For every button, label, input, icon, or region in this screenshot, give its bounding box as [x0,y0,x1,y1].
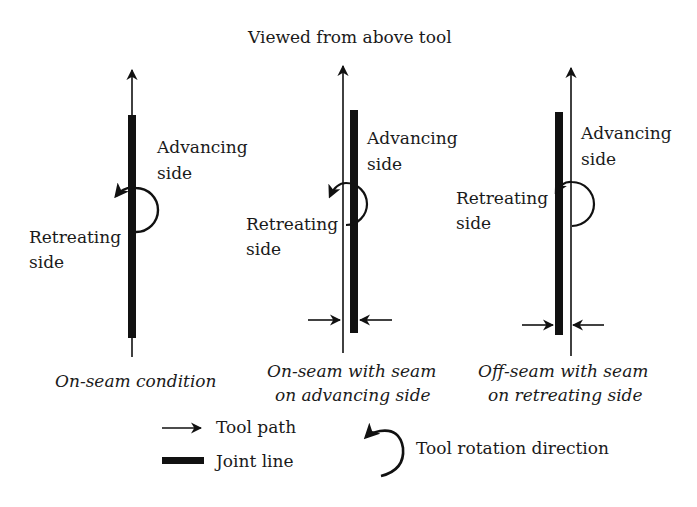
legend: Tool path Joint line Tool rotation direc… [162,417,609,476]
joint-line [128,115,136,338]
caption-on-seam-advancing: On-seam with seam on advancing side [267,361,442,405]
panel-off-seam-retreating: Advancing side Retreating side Off-seam … [456,68,677,405]
retreating-side-label: Retreating side [246,214,344,259]
rotation-direction-icon [116,188,158,232]
panel-on-seam-advancing: Advancing side Retreating side On-seam w… [246,66,463,405]
friction-stir-diagram: Viewed from above tool Advancing side Re… [0,0,697,507]
caption-on-seam: On-seam condition [55,371,217,391]
retreating-side-label: Retreating side [456,188,554,233]
legend-tool-path-label: Tool path [216,417,296,437]
retreating-side-label: Retreating side [29,227,127,272]
joint-line [555,112,563,335]
counterclockwise-arrow-icon [366,431,403,476]
thick-bar-icon [162,457,204,464]
legend-rotation-label: Tool rotation direction [416,438,609,458]
advancing-side-label: Advancing side [580,123,677,169]
panel-on-seam: Advancing side Retreating side On-seam c… [29,70,253,391]
advancing-side-label: Advancing side [156,137,253,183]
legend-joint-line-label: Joint line [214,451,294,471]
diagram-title: Viewed from above tool [247,27,452,47]
advancing-side-label: Advancing side [366,128,463,174]
caption-off-seam-retreating: Off-seam with seam on retreating side [478,361,654,405]
